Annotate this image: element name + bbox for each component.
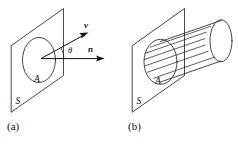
- panel-b-area-label: A: [154, 76, 161, 86]
- panel-b-streamlines: [144, 26, 214, 78]
- streamline-2: [146, 32, 207, 53]
- panel-a-group: θ v n A S (a): [7, 9, 105, 134]
- panel-a-area-label: A: [33, 74, 40, 84]
- panel-a-plane-label: S: [16, 96, 21, 106]
- panel-a-normal-label: n: [88, 44, 93, 54]
- panel-b-group: A S (b): [128, 9, 232, 134]
- panel-a-caption: (a): [7, 120, 20, 133]
- panel-b-tube-top-edge: [161, 21, 222, 42]
- panel-b-tube-end-cap: [210, 20, 232, 62]
- panel-a-velocity-arrowhead: [79, 33, 88, 39]
- panel-a-velocity-label: v: [84, 20, 89, 30]
- panel-a-velocity-shaft: [41, 36, 83, 59]
- figure-container: θ v n A S (a): [0, 0, 238, 153]
- figure-svg: θ v n A S (a): [0, 0, 238, 153]
- streamline-6: [154, 57, 215, 78]
- streamline-1: [150, 26, 211, 47]
- panel-b-plane-label: S: [137, 96, 142, 106]
- panel-a-angle-label: θ: [68, 45, 72, 55]
- panel-b-tube-bottom-edge: [161, 61, 222, 82]
- panel-b-caption: (b): [128, 120, 141, 133]
